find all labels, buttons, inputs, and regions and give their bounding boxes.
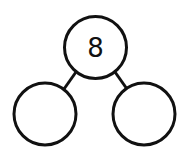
- part-circle-left: [14, 83, 76, 145]
- part-circle-right: [113, 83, 175, 145]
- connector-right: [115, 72, 127, 89]
- whole-value: 8: [87, 33, 104, 63]
- connector-left: [64, 72, 76, 89]
- number-bond-diagram: 8: [0, 0, 185, 167]
